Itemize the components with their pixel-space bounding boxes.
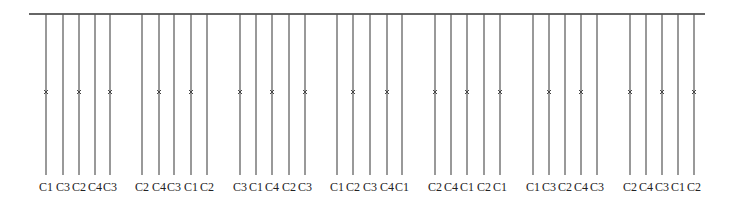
conductor-group-4: C1C2C3C4C1 <box>330 14 409 194</box>
conductor-label: C2 <box>72 180 86 194</box>
conductor-label: C3 <box>298 180 312 194</box>
conductor-label: C3 <box>590 180 604 194</box>
conductor-label: C1 <box>39 180 53 194</box>
conductor-group-2: C2C4C3C1C2 <box>135 14 214 194</box>
conductor-diagram: C1C3C2C4C3C2C4C3C1C2C3C1C4C2C3C1C2C3C4C1… <box>0 0 733 205</box>
conductor-label: C2 <box>687 180 701 194</box>
conductor-label: C4 <box>444 180 458 194</box>
conductor-label: C1 <box>184 180 198 194</box>
conductor-label: C2 <box>477 180 491 194</box>
conductor-group-6: C1C3C2C4C3 <box>526 14 604 194</box>
conductor-label: C1 <box>249 180 263 194</box>
conductor-label: C3 <box>363 180 377 194</box>
conductor-label: C4 <box>152 180 166 194</box>
conductor-label: C2 <box>558 180 572 194</box>
conductor-label: C2 <box>428 180 442 194</box>
conductor-label: C4 <box>380 180 394 194</box>
conductor-label: C3 <box>56 180 70 194</box>
conductor-groups: C1C3C2C4C3C2C4C3C1C2C3C1C4C2C3C1C2C3C4C1… <box>39 14 701 194</box>
conductor-label: C2 <box>135 180 149 194</box>
conductor-label: C3 <box>103 180 117 194</box>
conductor-group-1: C1C3C2C4C3 <box>39 14 117 194</box>
conductor-label: C1 <box>493 180 507 194</box>
conductor-label: C1 <box>395 180 409 194</box>
conductor-label: C3 <box>655 180 669 194</box>
conductor-label: C4 <box>265 180 279 194</box>
conductor-label: C3 <box>542 180 556 194</box>
conductor-label: C1 <box>526 180 540 194</box>
conductor-label: C3 <box>167 180 181 194</box>
conductor-label: C1 <box>460 180 474 194</box>
conductor-label: C4 <box>574 180 588 194</box>
conductor-label: C4 <box>88 180 102 194</box>
conductor-label: C2 <box>282 180 296 194</box>
conductor-label: C1 <box>330 180 344 194</box>
conductor-label: C2 <box>623 180 637 194</box>
conductor-label: C4 <box>639 180 653 194</box>
conductor-label: C3 <box>233 180 247 194</box>
conductor-label: C1 <box>671 180 685 194</box>
conductor-group-5: C2C4C1C2C1 <box>428 14 507 194</box>
conductor-group-3: C3C1C4C2C3 <box>233 14 312 194</box>
conductor-label: C2 <box>200 180 214 194</box>
conductor-label: C2 <box>346 180 360 194</box>
conductor-group-7: C2C4C3C1C2 <box>623 14 701 194</box>
